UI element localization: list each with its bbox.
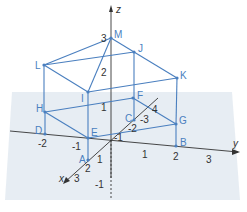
- y-tick-3: 3: [206, 154, 212, 165]
- z-arrow-icon: [109, 5, 113, 12]
- diagram-canvas: A B C D E F G H I J K L M z y x 3 2 1 -1…: [0, 0, 247, 212]
- x-tick-neg3: -3: [140, 114, 149, 125]
- x-tick-neg2: -2: [128, 123, 137, 134]
- y-axis-label: y: [232, 138, 239, 149]
- point-label-l: L: [35, 60, 41, 71]
- point-label-j: J: [138, 43, 143, 54]
- y-tick-1: 1: [142, 149, 148, 160]
- point-label-m: M: [114, 29, 122, 40]
- point-label-k: K: [180, 70, 187, 81]
- z-tick-1: 1: [101, 102, 107, 113]
- point-label-h: H: [36, 103, 43, 114]
- x-tick-2: 2: [85, 163, 91, 174]
- x-tick-3: 3: [74, 173, 80, 184]
- point-label-i: I: [81, 93, 84, 104]
- y-tick-neg2: -2: [38, 138, 47, 149]
- x-axis-label: x: [58, 173, 65, 184]
- point-label-e: E: [91, 127, 98, 138]
- z-tick-2: 2: [101, 67, 107, 78]
- z-tick-3: 3: [101, 33, 107, 44]
- point-label-g: G: [179, 115, 187, 126]
- y-tick-neg1: -1: [72, 141, 81, 152]
- point-label-f: F: [137, 90, 143, 101]
- x-tick-4: 4: [152, 104, 158, 115]
- z-tick-neg1: -1: [95, 179, 104, 190]
- y-tick-2: 2: [173, 151, 179, 162]
- x-tick-1: 1: [97, 154, 103, 165]
- point-label-b: B: [180, 137, 187, 148]
- x-tick-neg1: -1: [114, 132, 123, 143]
- z-axis-label: z: [115, 4, 121, 15]
- point-label-d: D: [35, 125, 42, 136]
